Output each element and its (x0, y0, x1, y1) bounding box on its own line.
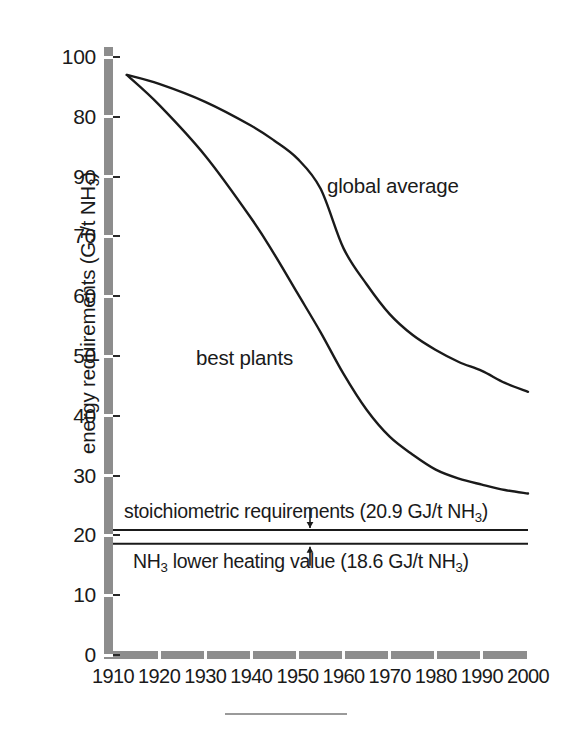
y-axis-tick-label: 20 (38, 524, 96, 545)
y-axis-tick-label: 70 (38, 225, 96, 246)
y-axis-tick-mark (113, 235, 120, 237)
y-axis-tick-label: 0 (38, 644, 96, 665)
y-axis-bar (104, 47, 113, 658)
data-series-group (127, 75, 528, 494)
y-axis-tick-gap (104, 115, 113, 118)
y-axis-tick-gap (104, 594, 113, 597)
y-axis-tick-label: 10 (38, 584, 96, 605)
x-axis-tick-gap (296, 651, 299, 659)
y-axis-tick-label: 40 (38, 405, 96, 426)
y-axis-tick-gap (104, 235, 113, 238)
x-axis-tick-gap (480, 651, 483, 659)
y-axis-tick-gap (104, 534, 113, 537)
reference-lines-group (113, 530, 528, 544)
annotation-lhv-text: lower heating value (18.6 GJ/t NH (168, 550, 456, 572)
x-axis-tick-gap (204, 651, 207, 659)
x-axis-tick-gap (434, 651, 437, 659)
y-axis-tick-label: 60 (38, 285, 96, 306)
y-axis-tick-gap (104, 56, 113, 59)
annotation-lhv-subscript: 3 (456, 560, 463, 575)
curve-label-global-average: global average (327, 175, 459, 196)
y-axis-tick-mark (113, 654, 120, 656)
annotation-stoich-subscript: 3 (475, 510, 482, 525)
y-axis-tick-mark (113, 56, 120, 58)
annotation-lhv-tail: ) (463, 550, 469, 572)
y-axis-tick-gap (104, 474, 113, 477)
y-axis-tick-gap (104, 355, 113, 358)
y-axis-tick-label: 30 (38, 465, 96, 486)
curve-label-best-plants: best plants (196, 347, 293, 368)
y-axis-tick-mark (113, 534, 120, 536)
chart-figure: energy requirements (GJ/t NH3) 100809070… (0, 0, 562, 729)
data-series-line (127, 75, 528, 494)
bottom-divider-rule (225, 713, 347, 715)
y-axis-tick-label: 80 (38, 106, 96, 127)
annotation-lhv-lead-subscript: 3 (161, 560, 168, 575)
y-axis-tick-gap (104, 414, 113, 417)
annotation-stoich-tail: ) (482, 500, 488, 522)
y-axis-tick-label: 90 (38, 166, 96, 187)
x-axis-tick-label: 2000 (501, 666, 555, 686)
y-axis-tick-mark (113, 594, 120, 596)
y-axis-tick-mark (113, 176, 120, 178)
annotation-stoichiometric-requirements: stoichiometric requirements (20.9 GJ/t N… (124, 501, 488, 528)
x-axis-bar (104, 651, 529, 659)
x-axis-tick-gap (250, 651, 253, 659)
y-axis-tick-mark (113, 355, 120, 357)
annotation-stoich-text: stoichiometric requirements (20.9 GJ/t N… (124, 500, 475, 522)
x-axis-tick-gap (388, 651, 391, 659)
data-series-line (127, 75, 528, 392)
y-axis-tick-label: 50 (38, 345, 96, 366)
x-axis-tick-gap (342, 651, 345, 659)
y-axis-tick-mark (113, 415, 120, 417)
annotation-lower-heating-value: NH3 lower heating value (18.6 GJ/t NH3) (133, 551, 469, 578)
y-axis-tick-mark (113, 295, 120, 297)
y-axis-tick-gap (104, 654, 113, 657)
x-axis-tick-gap (158, 651, 161, 659)
annotation-lhv-lead: NH (133, 550, 161, 572)
y-axis-tick-mark (113, 475, 120, 477)
y-axis-tick-gap (104, 295, 113, 298)
y-axis-tick-mark (113, 116, 120, 118)
x-axis-tick-gap (527, 651, 530, 659)
y-axis-tick-gap (104, 175, 113, 178)
y-axis-tick-label: 100 (38, 46, 96, 67)
